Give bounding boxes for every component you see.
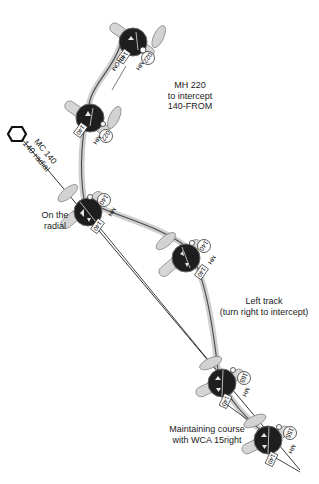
svg-text:MH: MH	[207, 254, 217, 265]
svg-text:MH: MH	[287, 443, 296, 454]
on-radial-annotation: On the radial	[30, 210, 80, 231]
intercept-annotation: MH 220 to intercept 140-FROM	[150, 80, 230, 112]
vor-hexagon-icon	[8, 127, 26, 141]
svg-text:MH: MH	[92, 134, 102, 145]
left-track-annotation: Left track (turn right to intercept)	[210, 296, 318, 317]
svg-text:MH: MH	[135, 60, 145, 71]
maintaining-course-annotation: Maintaining course with WCA 15right	[162, 424, 252, 445]
radial-intercept-diagram: 022 140 FROM MH 022 140 MH 140 140 MH 14…	[0, 0, 319, 484]
svg-text:MH: MH	[241, 386, 250, 397]
